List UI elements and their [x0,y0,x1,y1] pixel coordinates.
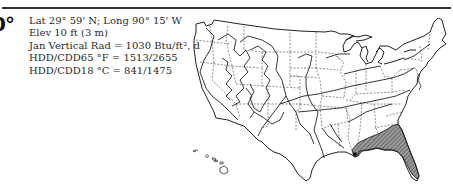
us-climate-map [0,0,453,184]
city-marker [353,152,357,156]
highlighted-zone [352,124,419,179]
hawaii [193,150,228,174]
